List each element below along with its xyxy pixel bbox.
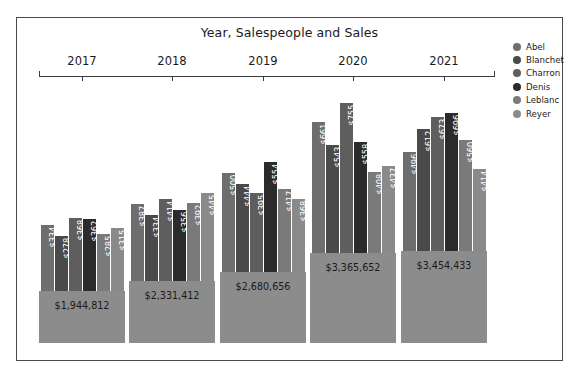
x-axis-label-2019: 2019: [223, 54, 303, 68]
bar-leblanc-2017[interactable]: $285,395: [97, 234, 110, 291]
bar-value-label: $334,486: [152, 215, 159, 238]
bar-value-label: $387,531: [138, 204, 145, 227]
bar-abel-2017[interactable]: $334,915: [41, 225, 54, 291]
bar-value-label: $445,486: [208, 193, 215, 216]
bar-reyer-2021[interactable]: $414,897: [473, 169, 486, 251]
bar-value-label: $558,139: [361, 142, 368, 165]
bar-reyer-2017[interactable]: $315,013: [111, 228, 124, 291]
bar-value-label: $661,832: [319, 122, 326, 145]
legend-item-blanchet[interactable]: Blanchet: [513, 53, 580, 66]
bar-value-label: $696,204: [452, 113, 459, 136]
bar-charron-2017[interactable]: $368,127: [69, 218, 82, 291]
bar-charron-2018[interactable]: $414,859: [159, 199, 172, 281]
legend-label: Reyer: [526, 109, 551, 119]
bar-value-label: $417,058: [285, 189, 292, 212]
x-axis-label-2017: 2017: [42, 54, 122, 68]
chart-frame: Year, Salespeople and Sales 201720182019…: [16, 17, 563, 361]
bar-value-label: $408,710: [375, 172, 382, 195]
bar-charron-2019[interactable]: $395,977: [250, 193, 263, 272]
legend-swatch-icon: [513, 69, 521, 77]
legend: AbelBlanchetCharronDenisLeblancReyer: [513, 40, 580, 120]
legend-item-charron[interactable]: Charron: [513, 67, 580, 80]
bar-value-label: $414,897: [480, 169, 487, 192]
bar-value-label: $496,746: [410, 152, 417, 175]
bar-denis-2017[interactable]: $362,843: [83, 219, 96, 291]
legend-label: Denis: [526, 82, 550, 92]
bar-reyer-2020[interactable]: $437,594: [382, 166, 395, 253]
plot-area: $334,915$278,519$368,127$362,843$285,395…: [17, 81, 562, 351]
legend-swatch-icon: [513, 110, 521, 118]
bar-denis-2018[interactable]: $356,480: [173, 210, 186, 281]
bar-value-label: $362,843: [90, 219, 97, 242]
legend-item-abel[interactable]: Abel: [513, 40, 580, 53]
total-panel-2018[interactable]: $2,331,412: [129, 281, 215, 343]
bar-abel-2019[interactable]: $500,597: [222, 173, 235, 272]
bar-value-label: $560,592: [466, 140, 473, 163]
bar-reyer-2018[interactable]: $445,486: [201, 193, 214, 281]
legend-swatch-icon: [513, 96, 521, 104]
x-axis: 20172018201920202021: [17, 49, 562, 81]
total-value-label: $3,454,433: [401, 260, 487, 271]
bar-row: $387,531$334,486$414,859$356,480$392,570…: [129, 111, 215, 281]
bar-leblanc-2019[interactable]: $417,058: [278, 189, 291, 272]
bar-blanchet-2017[interactable]: $278,519: [55, 236, 68, 291]
total-value-label: $3,365,652: [310, 262, 396, 273]
bar-value-label: $444,128: [243, 184, 250, 207]
bar-abel-2018[interactable]: $387,531: [131, 204, 144, 281]
bar-value-label: $368,225: [299, 199, 306, 222]
chart-title: Year, Salespeople and Sales: [17, 25, 562, 40]
year-group-2019: $500,597$444,128$395,977$554,671$417,058…: [220, 102, 306, 343]
legend-item-leblanc[interactable]: Leblanc: [513, 94, 580, 107]
bar-charron-2021[interactable]: $673,496: [431, 117, 444, 251]
bar-blanchet-2018[interactable]: $334,486: [145, 215, 158, 281]
bar-row: $661,832$543,485$755,892$558,139$408,710…: [310, 83, 396, 253]
total-panel-2021[interactable]: $3,454,433: [401, 251, 487, 343]
total-value-label: $2,331,412: [129, 290, 215, 301]
bar-value-label: $395,977: [257, 193, 264, 216]
bar-row: $334,915$278,519$368,127$362,843$285,395…: [39, 121, 125, 291]
year-group-2017: $334,915$278,519$368,127$362,843$285,395…: [39, 121, 125, 343]
total-panel-2019[interactable]: $2,680,656: [220, 272, 306, 343]
bar-row: $500,597$444,128$395,977$554,671$417,058…: [220, 102, 306, 272]
bar-leblanc-2021[interactable]: $560,592: [459, 140, 472, 251]
legend-label: Leblanc: [526, 95, 559, 105]
legend-item-denis[interactable]: Denis: [513, 80, 580, 93]
total-value-label: $2,680,656: [220, 281, 306, 292]
bar-value-label: $278,519: [62, 236, 69, 259]
bar-abel-2021[interactable]: $496,746: [403, 152, 416, 251]
bar-value-label: $368,127: [76, 218, 83, 241]
bar-value-label: $500,597: [229, 173, 236, 196]
bar-leblanc-2020[interactable]: $408,710: [368, 172, 381, 253]
x-axis-cap-right: [494, 71, 495, 77]
legend-label: Abel: [526, 42, 545, 52]
bar-value-label: $334,915: [48, 225, 55, 248]
bar-value-label: $437,594: [389, 166, 396, 189]
x-axis-label-2018: 2018: [132, 54, 212, 68]
legend-swatch-icon: [513, 43, 521, 51]
bar-value-label: $673,496: [438, 117, 445, 140]
bar-value-label: $554,671: [271, 162, 278, 185]
bar-denis-2020[interactable]: $558,139: [354, 142, 367, 253]
bar-blanchet-2021[interactable]: $612,498: [417, 129, 430, 251]
year-group-2021: $496,746$612,498$673,496$696,204$560,592…: [401, 81, 487, 343]
total-panel-2020[interactable]: $3,365,652: [310, 253, 396, 343]
x-axis-cap-left: [39, 71, 40, 77]
total-value-label: $1,944,812: [39, 300, 125, 311]
bar-value-label: $755,892: [347, 103, 354, 126]
bar-leblanc-2018[interactable]: $392,570: [187, 203, 200, 281]
bar-value-label: $285,395: [104, 234, 111, 257]
bar-value-label: $315,013: [118, 228, 125, 251]
total-panel-2017[interactable]: $1,944,812: [39, 291, 125, 343]
x-axis-line: [39, 76, 494, 77]
legend-item-reyer[interactable]: Reyer: [513, 107, 580, 120]
bar-denis-2021[interactable]: $696,204: [445, 113, 458, 251]
bar-blanchet-2019[interactable]: $444,128: [236, 184, 249, 272]
x-axis-label-2021: 2021: [404, 54, 484, 68]
bar-charron-2020[interactable]: $755,892: [340, 103, 353, 253]
year-group-2020: $661,832$543,485$755,892$558,139$408,710…: [310, 83, 396, 343]
bar-denis-2019[interactable]: $554,671: [264, 162, 277, 272]
bar-blanchet-2020[interactable]: $543,485: [326, 145, 339, 253]
bar-value-label: $356,480: [180, 210, 187, 233]
bar-reyer-2019[interactable]: $368,225: [292, 199, 305, 272]
bar-abel-2020[interactable]: $661,832: [312, 122, 325, 253]
